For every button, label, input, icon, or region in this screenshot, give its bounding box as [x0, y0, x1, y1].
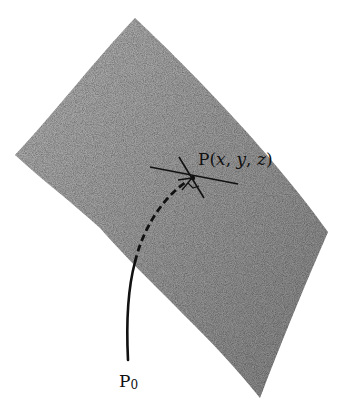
- point-p-dot: [191, 176, 195, 180]
- point-p-label: P(x, y, z): [198, 149, 273, 169]
- surface-patch: [15, 18, 328, 398]
- surface-diagram: P(x, y, z) P0: [0, 0, 343, 414]
- start-point-label: P0: [119, 371, 138, 392]
- curve-solid-segment: [127, 262, 135, 360]
